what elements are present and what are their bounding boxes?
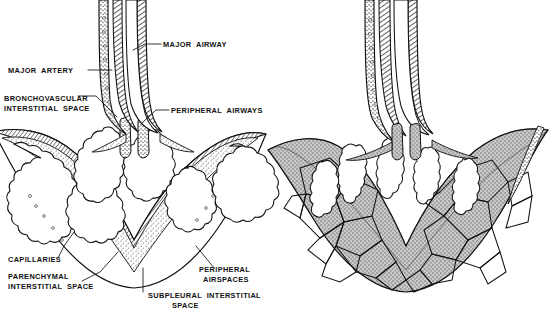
label-capillaries: CAPILLARIES	[8, 255, 61, 264]
anatomical-figure: MAJOR AIRWAY MAJOR ARTERY BRONCHOVASCULA…	[0, 0, 558, 313]
label-major-airway: MAJOR AIRWAY	[163, 40, 227, 49]
figure-canvas: MAJOR AIRWAY MAJOR ARTERY BRONCHOVASCULA…	[0, 0, 558, 313]
label-major-artery: MAJOR ARTERY	[8, 66, 73, 75]
label-peripheral-airspaces: PERIPHERAL AIRSPACES	[199, 265, 255, 284]
peripheral-airway-right-2	[410, 123, 421, 160]
peripheral-airway-right-1	[392, 123, 403, 160]
label-bronchovascular-interstitial-space: BRONCHOVASCULAR INTERSTITIAL SPACE	[4, 94, 93, 113]
label-peripheral-airways: PERIPHERAL AIRWAYS	[171, 106, 263, 115]
